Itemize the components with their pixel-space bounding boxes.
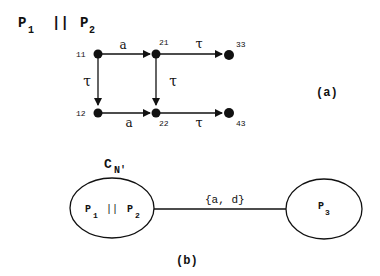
node-22 [152, 109, 161, 118]
node-12 [94, 109, 103, 118]
figure-b-label: (b) [176, 254, 198, 268]
title-p2: P [80, 15, 88, 31]
figure-a-label: (a) [316, 86, 338, 100]
edge-label-12-22: a [125, 116, 132, 130]
node-label-22: 22 [159, 119, 169, 128]
node-21 [152, 50, 161, 59]
edges [98, 54, 222, 113]
link-label: {a, d} [205, 194, 245, 206]
edge-label-21-33: τ [195, 36, 202, 51]
left-p1-sub: 1 [93, 211, 98, 220]
left-process-label: P 1 || P 2 [85, 204, 140, 220]
edge-label-11-12: τ [83, 73, 91, 89]
network-label-c: C [104, 157, 112, 172]
node-label-43: 43 [236, 119, 246, 128]
right-process-label: P 3 [318, 201, 330, 217]
figure-a-title: P 1 || P 2 [18, 15, 95, 36]
network-label-sub: N' [114, 165, 126, 176]
right-p3-sub: 3 [325, 208, 330, 217]
left-p1: P [85, 204, 91, 215]
network-label: C N' [104, 157, 126, 176]
node-label-12: 12 [76, 109, 86, 118]
node-label-11: 11 [76, 50, 86, 59]
left-p2: P [127, 204, 133, 215]
nodes [94, 50, 235, 119]
title-parallel-op: || [52, 15, 69, 31]
diagram-canvas: P 1 || P 2 11 21 33 12 22 43 a τ τ τ a [0, 0, 380, 276]
node-43 [224, 108, 234, 118]
edge-label-11-21: a [119, 38, 126, 52]
node-33 [224, 50, 234, 60]
title-p2-sub: 2 [89, 25, 95, 36]
node-label-33: 33 [236, 40, 246, 49]
title-p1-sub: 1 [28, 25, 34, 36]
right-p3: P [318, 201, 324, 212]
node-label-21: 21 [159, 38, 169, 47]
edge-label-22-43: τ [195, 115, 202, 130]
left-parallel-op: || [106, 204, 118, 215]
edge-label-21-22: τ [169, 73, 177, 89]
left-p2-sub: 2 [135, 211, 140, 220]
title-p1: P [18, 15, 26, 31]
node-11 [94, 50, 103, 59]
